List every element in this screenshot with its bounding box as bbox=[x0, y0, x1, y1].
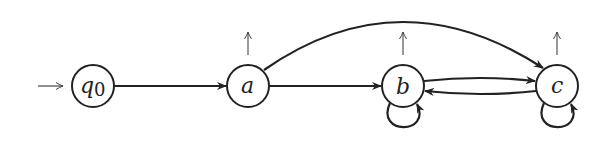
state-c-label: c bbox=[551, 73, 563, 98]
edge-c-b bbox=[425, 91, 536, 94]
state-a-label: a bbox=[241, 73, 254, 98]
state-b-label: b bbox=[396, 74, 410, 99]
automaton-diagram: q0 a b c bbox=[0, 0, 611, 143]
edge-b-c bbox=[424, 78, 535, 81]
